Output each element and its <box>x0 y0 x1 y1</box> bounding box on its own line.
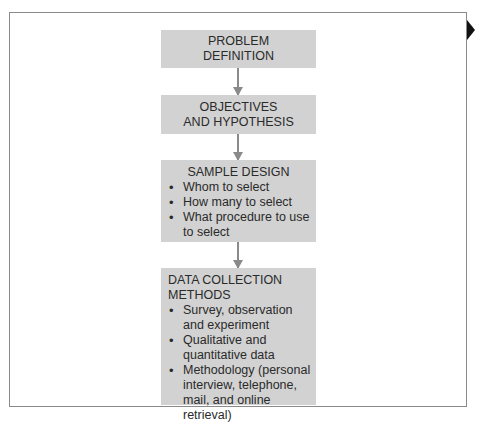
node-sample-design: SAMPLE DESIGN Whom to select How many to… <box>161 160 316 242</box>
page-marker-triangle-icon <box>467 20 475 40</box>
bullet-item: What procedure to use to select <box>161 210 316 240</box>
node-text-line: AND HYPOTHESIS <box>161 115 316 130</box>
bullet-list: Survey, observation and experiment Quali… <box>161 303 316 423</box>
node-title: DATA COLLECTION METHODS <box>161 273 316 303</box>
node-objectives-hypothesis: OBJECTIVES AND HYPOTHESIS <box>161 95 316 134</box>
bullet-item: Qualitative and quantitative data <box>161 333 316 363</box>
arrow-down-icon <box>237 242 239 268</box>
node-text-line: DEFINITION <box>161 49 316 64</box>
bullet-item: Whom to select <box>161 180 316 195</box>
bullet-item: How many to select <box>161 195 316 210</box>
node-data-collection-methods: DATA COLLECTION METHODS Survey, observat… <box>161 268 316 405</box>
bullet-item: Survey, observation and experiment <box>161 303 316 333</box>
bullet-list: Whom to select How many to select What p… <box>161 180 316 240</box>
arrow-down-icon <box>237 68 239 95</box>
node-problem-definition: PROBLEM DEFINITION <box>161 30 316 68</box>
arrow-down-icon <box>237 134 239 160</box>
bullet-item: Methodology (personal interview, telepho… <box>161 363 316 423</box>
node-text-line: PROBLEM <box>161 34 316 49</box>
node-text-line: OBJECTIVES <box>161 100 316 115</box>
node-title: SAMPLE DESIGN <box>161 165 316 180</box>
